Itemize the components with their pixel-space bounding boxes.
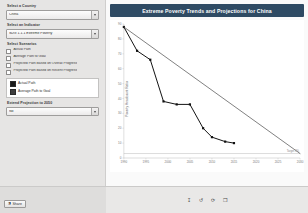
scenario-label: Average Path to Goal (13, 55, 45, 59)
svg-text:2025: 2025 (275, 160, 282, 164)
legend-label: Actual Path (18, 82, 35, 85)
svg-text:90: 90 (118, 22, 122, 26)
share-button[interactable]: ◨ Share (4, 200, 26, 208)
svg-text:80: 80 (118, 37, 122, 41)
svg-text:1990: 1990 (121, 160, 128, 164)
scenario-label: Projected Path Based on Overall Progress (13, 62, 77, 66)
country-select[interactable]: China (6, 10, 99, 20)
indicator-label: Select an Indicator (7, 24, 99, 28)
legend-item: Average Path to Goal (10, 89, 96, 95)
country-label: Select a Country (7, 5, 99, 9)
svg-text:60: 60 (118, 67, 122, 71)
svg-text:2020: 2020 (253, 160, 260, 164)
data-series (123, 26, 300, 154)
legend-swatch (10, 89, 16, 95)
svg-text:Target 3%: Target 3% (287, 149, 300, 153)
scenario-label: Actual Path (13, 48, 30, 52)
chart-title: Extreme Poverty Trends and Projections f… (110, 4, 304, 17)
legend-label: Average Path to Goal (18, 90, 50, 93)
share-icon: ◨ (8, 202, 11, 205)
chart-annotations: Target 3% (287, 149, 300, 153)
svg-text:50: 50 (118, 82, 122, 86)
scenario-option[interactable]: Average Path to Goal (6, 55, 99, 61)
svg-text:40: 40 (118, 97, 122, 101)
fullscreen-icon[interactable]: ❐ (222, 197, 229, 204)
checkbox-icon[interactable] (6, 63, 11, 68)
svg-text:2010: 2010 (209, 160, 216, 164)
indicator-select[interactable]: SDG 1.1.1 Extreme Poverty (6, 29, 99, 39)
scenarios-label: Select Scenarios (7, 43, 99, 47)
plot-area: Poverty Headcount Ratio 0102030405060708… (110, 20, 304, 172)
scenario-label: Projected Path Based on Recent Progress (13, 69, 77, 73)
country-value: China (9, 13, 93, 17)
indicator-value: SDG 1.1.1 Extreme Poverty (9, 32, 93, 36)
download-icon[interactable]: ↧ (186, 197, 193, 204)
extend-projection-value: No (9, 110, 93, 114)
control-sidebar: Select a Country China Select an Indicat… (0, 0, 106, 186)
svg-text:1995: 1995 (143, 160, 150, 164)
checkbox-icon[interactable] (6, 49, 11, 54)
app-window: Select a Country China Select an Indicat… (0, 0, 308, 213)
checkbox-icon[interactable] (6, 70, 11, 75)
svg-text:30: 30 (118, 112, 122, 116)
extend-projection-select[interactable]: No (6, 107, 99, 117)
legend-item: Actual Path (10, 81, 96, 87)
scenario-checkbox-group: Actual Path Average Path to Goal Project… (6, 48, 99, 75)
tick-labels: 0102030405060708090199019952000200520102… (118, 22, 304, 164)
share-bar: ◨ Share (0, 186, 106, 213)
svg-text:2015: 2015 (231, 160, 238, 164)
svg-text:2030: 2030 (297, 160, 304, 164)
chart-legend: Actual Path Average Path to Goal (6, 78, 99, 98)
extend-projection-label: Extend Projection to 2050 (7, 102, 99, 106)
y-axis-label: Poverty Headcount Ratio (125, 82, 129, 117)
checkbox-icon[interactable] (6, 56, 11, 61)
svg-text:70: 70 (118, 52, 122, 56)
share-label: Share (13, 202, 22, 206)
svg-text:20: 20 (118, 126, 122, 130)
chevron-down-icon[interactable] (91, 108, 98, 116)
scenario-option[interactable]: Actual Path (6, 48, 99, 54)
undo-icon[interactable]: ↺ (198, 197, 205, 204)
refresh-icon[interactable]: ⟳ (210, 197, 217, 204)
chevron-down-icon[interactable] (91, 11, 98, 19)
chart-panel: Extreme Poverty Trends and Projections f… (106, 0, 308, 186)
svg-text:2000: 2000 (165, 160, 172, 164)
chart-toolbar: ↧ ↺ ⟳ ❐ (106, 186, 308, 213)
scenario-option[interactable]: Projected Path Based on Overall Progress (6, 62, 99, 68)
svg-text:2005: 2005 (187, 160, 194, 164)
scenario-option[interactable]: Projected Path Based on Recent Progress (6, 69, 99, 75)
svg-text:10: 10 (118, 141, 122, 145)
chevron-down-icon[interactable] (91, 30, 98, 38)
line-chart-svg: 0102030405060708090199019952000200520102… (110, 20, 304, 172)
legend-swatch (10, 81, 16, 87)
